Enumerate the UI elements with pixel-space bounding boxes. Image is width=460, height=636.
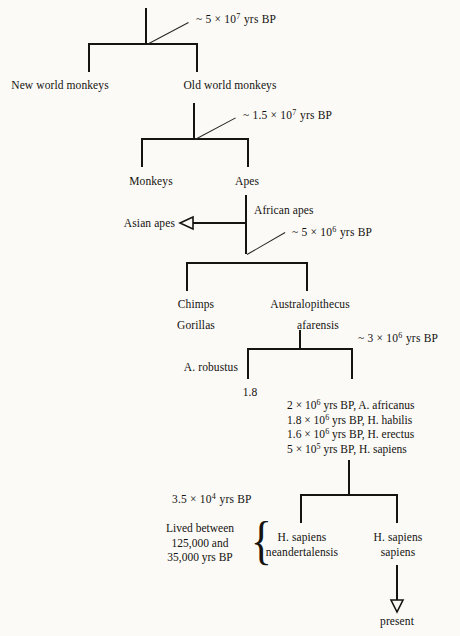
label-present: present	[380, 614, 414, 628]
lived-note-line2: 125,000 and	[172, 537, 229, 549]
level1-crossbar	[88, 43, 198, 45]
species-event-multiplier: × 10	[304, 414, 325, 426]
label-neandertalensis-line1: H. sapiens	[278, 530, 327, 544]
stem-old-world-monkeys	[193, 103, 195, 139]
branch-neandertalensis	[300, 494, 302, 523]
label-gorillas: Gorillas	[177, 318, 215, 332]
species-event-row: 5 × 105 yrs BP, H. sapiens	[287, 442, 414, 457]
species-event-multiplier: × 10	[296, 399, 317, 411]
label-apes: Apes	[235, 174, 259, 188]
level6-crossbar	[300, 494, 398, 496]
lived-note-line1: Lived between	[166, 522, 234, 534]
level4-crossbar	[186, 262, 308, 264]
second-age-suffix: yrs BP	[300, 109, 332, 121]
second-age-leader	[195, 117, 236, 139]
label-old-world-monkeys: Old world monkeys	[183, 78, 276, 92]
present-arrowhead	[389, 598, 405, 614]
species-event-name: H. habilis	[368, 414, 413, 426]
stem-apes	[245, 195, 247, 254]
branch-chimps-gorillas	[186, 262, 188, 291]
branch-old-world-monkeys	[196, 43, 198, 72]
third-age-label: ~ 5 × 106 yrs BP	[292, 226, 372, 238]
label-a-robustus: A. robustus	[184, 360, 238, 374]
species-event-value: 5	[287, 443, 296, 455]
asian-apes-arrowhead	[179, 215, 195, 231]
species-event-row: 1.8 × 106 yrs BP, H. habilis	[287, 413, 414, 428]
branch-australopithecus	[306, 262, 308, 291]
label-sapiens-sapiens-line2: sapiens	[381, 545, 416, 559]
fifth-age-text: 3.5 × 10	[172, 493, 212, 505]
stem-present	[396, 565, 398, 601]
species-event-value: 1.6	[287, 428, 304, 440]
root-age-label: ~ 5 × 107 yrs BP	[196, 13, 276, 25]
third-age-text: ~ 5 × 10	[292, 226, 332, 238]
level5-crossbar	[247, 348, 353, 350]
third-age-leader	[247, 232, 286, 255]
species-event-value: 2	[287, 399, 296, 411]
species-event-unit: yrs BP,	[329, 428, 367, 440]
label-monkeys: Monkeys	[129, 174, 173, 188]
label-new-world-monkeys: New world monkeys	[11, 78, 109, 92]
stem-australopithecus	[299, 330, 301, 349]
species-event-unit: yrs BP,	[321, 443, 359, 455]
species-event-multiplier: × 10	[304, 428, 325, 440]
species-event-value: 1.8	[287, 414, 304, 426]
label-asian-apes: Asian apes	[124, 216, 175, 230]
branch-a-robustus	[247, 348, 249, 379]
branch-sapiens-sapiens	[396, 494, 398, 523]
asian-apes-arrow-shaft	[192, 222, 247, 224]
lived-note-line3: 35,000 yrs BP	[167, 551, 233, 563]
species-event-name: A. africanus	[358, 399, 414, 411]
species-event-list: 2 × 106 yrs BP, A. africanus1.8 × 106 yr…	[287, 398, 414, 456]
fourth-age-label: ~ 3 × 106 yrs BP	[358, 332, 438, 344]
lived-between-note: Lived between 125,000 and 35,000 yrs BP	[155, 521, 245, 565]
label-afarensis: afarensis	[297, 318, 339, 332]
root-stem	[145, 8, 147, 44]
root-age-suffix: yrs BP	[244, 13, 276, 25]
fifth-age-suffix: yrs BP	[219, 493, 251, 505]
species-event-multiplier: × 10	[296, 443, 317, 455]
branch-apes	[247, 138, 249, 167]
label-sapiens-sapiens-line1: H. sapiens	[374, 530, 423, 544]
label-neandertalensis-line2: neandertalensis	[266, 545, 338, 559]
label-african-apes: African apes	[254, 203, 314, 217]
stem-hominid-line	[348, 460, 350, 495]
root-age-leader	[147, 22, 189, 45]
fourth-age-suffix: yrs BP	[406, 332, 438, 344]
branch-monkeys	[141, 138, 143, 167]
label-chimps: Chimps	[178, 297, 214, 311]
branch-new-world-monkeys	[88, 43, 90, 72]
species-event-unit: yrs BP,	[329, 414, 367, 426]
species-event-name: H. erectus	[368, 428, 415, 440]
label-robustus-value: 1.8	[243, 385, 258, 399]
label-australopithecus: Australopithecus	[270, 297, 350, 311]
phylogenetic-tree-diagram: ~ 5 × 107 yrs BP New world monkeys Old w…	[0, 0, 460, 636]
third-age-suffix: yrs BP	[340, 226, 372, 238]
species-event-unit: yrs BP,	[321, 399, 359, 411]
curly-brace-icon: {	[251, 515, 272, 567]
root-age-text: ~ 5 × 10	[196, 13, 236, 25]
fourth-age-text: ~ 3 × 10	[358, 332, 398, 344]
species-event-name: H. sapiens	[359, 443, 407, 455]
species-event-row: 2 × 106 yrs BP, A. africanus	[287, 398, 414, 413]
second-age-text: ~ 1.5 × 10	[243, 109, 292, 121]
second-age-label: ~ 1.5 × 107 yrs BP	[243, 109, 332, 121]
branch-hominid-line	[351, 348, 353, 379]
fifth-age-label: 3.5 × 104 yrs BP	[172, 493, 252, 505]
species-event-row: 1.6 × 106 yrs BP, H. erectus	[287, 427, 414, 442]
